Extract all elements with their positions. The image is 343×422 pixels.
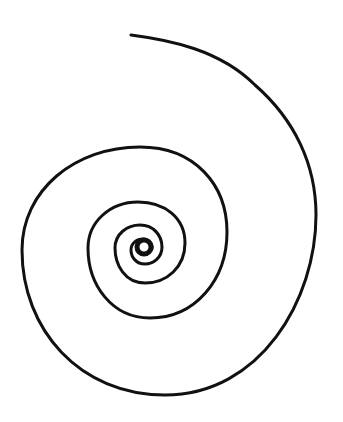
spiral-figure	[0, 0, 343, 422]
spiral-core-dot	[142, 247, 145, 250]
spiral-curve	[22, 35, 316, 395]
